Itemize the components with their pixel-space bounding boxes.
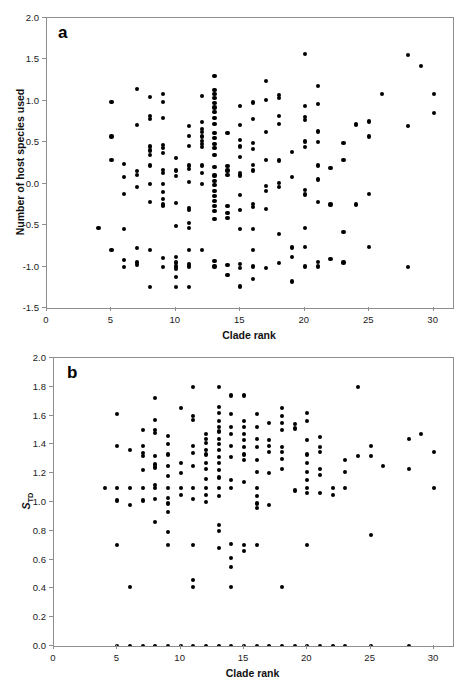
data-point (153, 454, 157, 458)
data-point (187, 248, 191, 252)
y-tick-mark (42, 58, 46, 59)
y-axis-title-a: Number of host species used (14, 89, 26, 235)
data-point (174, 201, 178, 205)
y-tick-label: 0.6 (33, 553, 46, 564)
y-tick-label: 0.0 (33, 640, 46, 651)
data-point (191, 497, 195, 501)
data-point (277, 122, 281, 126)
data-point (305, 438, 309, 442)
x-tick-label: 0 (50, 652, 55, 663)
y-tick-label: 1.8 (33, 380, 46, 391)
x-tick-mark (243, 645, 244, 649)
data-point (229, 542, 233, 546)
y-tick-mark (49, 386, 53, 387)
data-point (212, 173, 216, 177)
y-tick-mark (42, 224, 46, 225)
data-point (148, 163, 152, 167)
data-point (204, 477, 208, 481)
data-point (191, 486, 195, 490)
data-point (161, 190, 165, 194)
data-point (229, 393, 233, 397)
data-point (242, 458, 246, 462)
data-point (191, 578, 195, 582)
data-point (277, 96, 281, 100)
data-point (305, 470, 309, 474)
x-axis-title-b: Clade rank (226, 667, 280, 679)
data-point (122, 227, 126, 231)
data-point (229, 565, 233, 569)
data-point (264, 189, 268, 193)
data-point (191, 385, 195, 389)
data-point (238, 144, 242, 148)
data-point (212, 74, 216, 78)
data-point (406, 124, 410, 128)
data-point (200, 248, 204, 252)
data-point (264, 184, 268, 188)
data-point (328, 166, 332, 170)
data-point (303, 52, 307, 56)
data-point (128, 644, 132, 646)
data-point (255, 458, 259, 462)
data-point (191, 444, 195, 448)
data-point (200, 171, 204, 175)
data-point (280, 467, 284, 471)
data-point (255, 486, 259, 490)
data-point (141, 468, 145, 472)
data-point (381, 464, 385, 468)
plot-area-b (54, 358, 453, 646)
data-point (264, 207, 268, 211)
y-tick-label: 1.4 (33, 438, 46, 449)
data-point (148, 153, 152, 157)
data-point (153, 465, 157, 469)
data-point (238, 123, 242, 127)
y-tick-label: 1.2 (33, 467, 46, 478)
data-point (153, 431, 157, 435)
data-point (109, 100, 113, 104)
x-tick-mark (433, 645, 434, 649)
data-point (212, 259, 216, 263)
data-point (280, 421, 284, 425)
data-point (217, 486, 221, 490)
data-point (367, 119, 371, 123)
data-point (179, 486, 183, 490)
data-point (280, 644, 284, 646)
y-tick-mark (49, 501, 53, 502)
data-point (166, 464, 170, 468)
y-tick-label: 0.0 (26, 177, 39, 188)
data-point (267, 503, 271, 507)
x-tick-mark (175, 307, 176, 311)
y-tick-label: 2.0 (26, 12, 39, 23)
data-point (103, 486, 107, 490)
y-tick-label: 1.0 (26, 94, 39, 105)
data-point (242, 432, 246, 436)
y-tick-mark (49, 587, 53, 588)
data-point (217, 437, 221, 441)
data-point (161, 204, 165, 208)
data-point (318, 450, 322, 454)
data-point (212, 209, 216, 213)
data-point (280, 457, 284, 461)
data-point (407, 467, 411, 471)
data-point (204, 432, 208, 436)
data-point (432, 111, 436, 115)
data-point (277, 114, 281, 118)
data-point (242, 480, 246, 484)
data-point (109, 158, 113, 162)
data-point (318, 445, 322, 449)
data-point (251, 141, 255, 145)
data-point (343, 458, 347, 462)
data-point (141, 644, 145, 646)
y-tick-label: 1.6 (33, 409, 46, 420)
data-point (316, 84, 320, 88)
data-point (204, 486, 208, 490)
x-tick-label: 30 (427, 314, 438, 325)
data-point (225, 263, 229, 267)
data-point (217, 523, 221, 527)
data-point (204, 493, 208, 497)
data-point (217, 475, 221, 479)
y-tick-mark (42, 100, 46, 101)
data-point (303, 118, 307, 122)
data-point (204, 500, 208, 504)
data-point (166, 510, 170, 514)
data-point (343, 470, 347, 474)
